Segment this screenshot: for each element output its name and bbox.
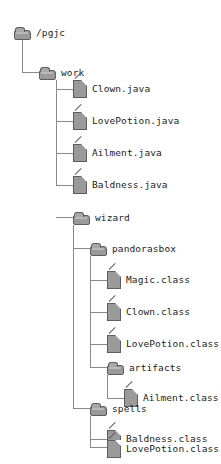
tree-node-folder[interactable]: /pgjc bbox=[14, 22, 65, 44]
connector-hline bbox=[90, 439, 107, 440]
file-icon bbox=[107, 271, 121, 289]
tree-node-label: pandorasbox bbox=[112, 244, 176, 255]
tree-node-label: /pgjc bbox=[36, 28, 65, 39]
folder-icon bbox=[39, 67, 56, 80]
tree-node-folder[interactable]: wizard bbox=[73, 207, 130, 229]
tree-node-file[interactable]: Baldness.java bbox=[73, 174, 168, 196]
tree-node-label: LovePotion.java bbox=[92, 116, 179, 127]
connector-vline bbox=[73, 225, 74, 409]
connector-hline bbox=[56, 185, 73, 186]
tree-node-label: wizard bbox=[95, 213, 130, 224]
connector-hline bbox=[56, 217, 73, 218]
tree-node-folder[interactable]: artifacts bbox=[107, 357, 181, 379]
folder-icon bbox=[73, 212, 90, 225]
folder-icon bbox=[90, 243, 107, 256]
file-icon bbox=[73, 176, 87, 194]
connector-vline bbox=[90, 416, 91, 448]
connector-hline bbox=[73, 408, 90, 409]
tree-node-file[interactable]: Magic.class bbox=[107, 269, 190, 291]
tree-node-label: Baldness.java bbox=[92, 180, 168, 191]
file-icon bbox=[107, 335, 121, 353]
folder-icon bbox=[90, 403, 107, 416]
tree-node-label: LovePotion.class bbox=[126, 339, 219, 350]
connector-hline bbox=[56, 153, 73, 154]
connector-hline bbox=[90, 312, 107, 313]
tree-node-label: artifacts bbox=[129, 363, 181, 374]
file-icon bbox=[73, 80, 87, 98]
file-icon bbox=[107, 440, 121, 458]
connector-hline bbox=[56, 121, 73, 122]
connector-hline bbox=[90, 447, 107, 448]
tree-node-folder[interactable]: spells bbox=[90, 398, 147, 420]
file-tree: /pgjc work Clown.java LovePotion.java Ai… bbox=[0, 0, 221, 464]
file-icon bbox=[73, 144, 87, 162]
folder-icon bbox=[107, 362, 124, 375]
tree-node-file[interactable]: LovePotion.class bbox=[107, 438, 219, 460]
tree-node-file[interactable]: Ailment.java bbox=[73, 142, 162, 164]
tree-node-file[interactable]: Clown.java bbox=[73, 78, 150, 100]
tree-node-file[interactable]: LovePotion.class bbox=[107, 333, 219, 355]
file-icon bbox=[73, 112, 87, 130]
tree-node-folder[interactable]: pandorasbox bbox=[90, 238, 176, 260]
tree-node-label: spells bbox=[112, 404, 147, 415]
tree-node-label: Ailment.class bbox=[143, 393, 219, 404]
connector-hline bbox=[73, 248, 90, 249]
tree-node-label: Magic.class bbox=[126, 275, 190, 286]
folder-icon bbox=[14, 27, 31, 40]
connector-hline bbox=[90, 367, 107, 368]
tree-node-label: Clown.java bbox=[92, 84, 150, 95]
tree-node-label: Ailment.java bbox=[92, 148, 162, 159]
connector-hline bbox=[90, 280, 107, 281]
tree-node-file[interactable]: Clown.class bbox=[107, 301, 190, 323]
tree-node-label: Clown.class bbox=[126, 307, 190, 318]
connector-hline bbox=[56, 89, 73, 90]
connector-vline bbox=[56, 80, 57, 186]
file-icon bbox=[107, 303, 121, 321]
connector-hline bbox=[90, 344, 107, 345]
connector-hline bbox=[22, 72, 39, 73]
tree-node-label: LovePotion.class bbox=[126, 444, 219, 455]
tree-node-file[interactable]: LovePotion.java bbox=[73, 110, 179, 132]
